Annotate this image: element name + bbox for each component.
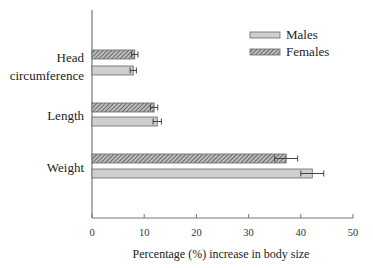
males-bar <box>92 169 312 178</box>
males-bar <box>92 66 133 75</box>
legend-label: Males <box>286 27 318 42</box>
legend-label: Females <box>286 44 329 59</box>
category-label: Head <box>57 50 85 65</box>
x-tick-label: 10 <box>139 227 150 238</box>
females-bar <box>92 154 286 163</box>
females-legend-swatch <box>250 49 280 55</box>
x-tick-label: 40 <box>296 227 307 238</box>
x-tick-label: 50 <box>348 227 359 238</box>
females-bar <box>92 103 154 112</box>
bars <box>92 50 324 178</box>
category-labels: HeadcircumferenceLengthWeight <box>10 50 85 175</box>
x-axis-title: Percentage (%) increase in body size <box>133 247 310 261</box>
category-label: circumference <box>10 68 85 83</box>
category-label: Weight <box>47 160 85 175</box>
legend: MalesFemales <box>250 27 329 59</box>
bar-chart: 01020304050 HeadcircumferenceLengthWeigh… <box>0 0 373 268</box>
females-bar <box>92 50 135 59</box>
category-label: Length <box>47 108 84 123</box>
x-tick-label: 30 <box>243 227 254 238</box>
x-tick-label: 0 <box>89 227 94 238</box>
x-tick-label: 20 <box>191 227 202 238</box>
males-legend-swatch <box>250 32 280 38</box>
males-bar <box>92 117 157 126</box>
